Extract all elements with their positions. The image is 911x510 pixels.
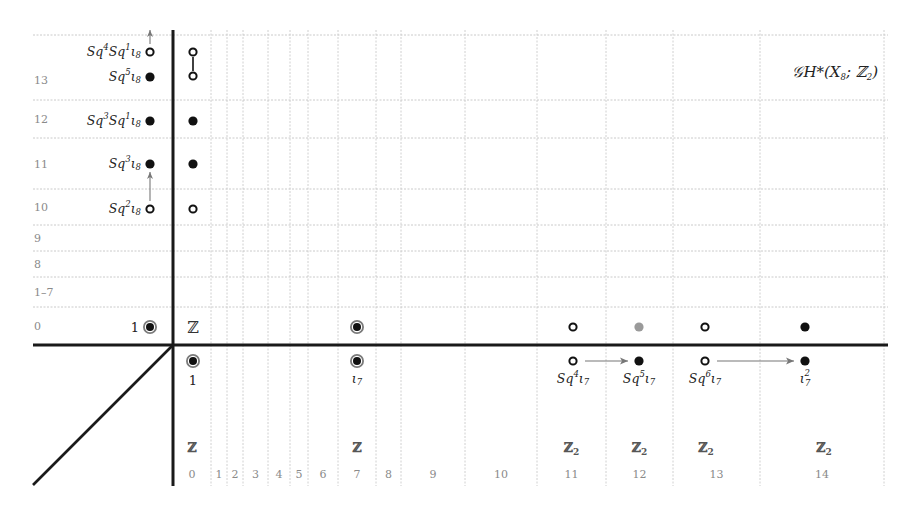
- column-label: 14: [815, 468, 829, 481]
- generator-label: 1: [189, 373, 197, 388]
- open-dot-icon: [189, 72, 196, 79]
- open-dot-icon: [569, 323, 576, 330]
- row-label: 10: [34, 201, 48, 214]
- ring-dot-icon: [350, 320, 364, 334]
- diagram-title: 𝒢H*(X8; ℤ2): [792, 63, 878, 82]
- row-label: 8: [34, 258, 41, 271]
- arrow-icon: [147, 30, 153, 44]
- generator-label: Sq3Sq1ι8: [87, 111, 142, 129]
- generator-label: Sq5ι8: [109, 67, 142, 85]
- column-label: 6: [320, 468, 327, 481]
- lower-row-generators: 1ι7Sq4ι7Sq5ι7Sq6ι7ι27: [186, 354, 811, 388]
- filled-dot-icon: [188, 159, 197, 168]
- column-label: 8: [385, 468, 392, 481]
- filled-dot-icon: [800, 356, 809, 365]
- group-labels: ℤℤℤ2ℤ2ℤ2ℤ2: [187, 440, 832, 457]
- column-label: 7: [354, 468, 361, 481]
- row-label: 1–7: [34, 286, 54, 299]
- filled-dot-icon: [634, 356, 643, 365]
- generator-label: Sq5ι7: [623, 369, 656, 387]
- ring-dot-icon: [186, 354, 200, 368]
- column-label: 9: [430, 468, 437, 481]
- generator-label: ι7: [352, 371, 363, 387]
- generator-label: ι27: [800, 368, 811, 388]
- arrow-icon: [147, 172, 153, 201]
- column-label: 3: [252, 468, 259, 481]
- column-label: 4: [276, 468, 283, 481]
- row-label: 12: [34, 113, 48, 126]
- column-label: 11: [565, 468, 579, 481]
- generator-label: Sq3ι8: [109, 154, 142, 172]
- arrow-icon: [585, 358, 628, 365]
- open-dot-icon: [569, 357, 576, 364]
- open-dot-icon: [701, 323, 708, 330]
- group-label: ℤ2: [698, 440, 714, 457]
- column-label: 10: [494, 468, 508, 481]
- unit-dot-icon: [143, 320, 157, 334]
- spectral-sequence-diagram: 13121110981–70 01234567891011121314 ℤℤℤ2…: [0, 0, 911, 510]
- group-label: ℤ2: [816, 440, 832, 457]
- left-column-generators: Sq4Sq1ι8Sq5ι8Sq3Sq1ι8Sq3ι8Sq2ι81: [87, 42, 157, 335]
- filled-dot-icon: [800, 322, 809, 331]
- row-label: 0: [34, 320, 41, 333]
- open-dot-icon: [146, 48, 153, 55]
- filled-dot-icon: [145, 72, 154, 81]
- generator-label: Sq4Sq1ι8: [87, 42, 142, 60]
- arrow-icon: [717, 358, 794, 365]
- diagonal-axis: [33, 345, 173, 485]
- group-label: ℤ2: [632, 440, 648, 457]
- group-label: ℤ: [352, 440, 362, 455]
- generator-label: Sq4ι7: [557, 369, 590, 387]
- row-label: 9: [34, 232, 41, 245]
- column-label: 0: [189, 468, 196, 481]
- column-0-dots: [188, 48, 197, 212]
- open-dot-icon: [146, 205, 153, 212]
- generator-label: Sq2ι8: [109, 199, 142, 217]
- open-dot-icon: [701, 357, 708, 364]
- filled-dot-icon: [145, 159, 154, 168]
- differential-arrows: [147, 30, 794, 365]
- column-label: 13: [710, 468, 724, 481]
- row0-ring-label: ℤ: [187, 318, 199, 337]
- group-label: ℤ: [187, 440, 197, 455]
- row-label: 11: [34, 158, 48, 171]
- row-0-dots: [350, 320, 810, 334]
- unit-label: 1: [131, 320, 139, 335]
- group-label: ℤ2: [564, 440, 580, 457]
- column-label: 5: [296, 468, 303, 481]
- filled-dot-icon: [145, 116, 154, 125]
- open-dot-icon: [189, 205, 196, 212]
- column-label: 2: [232, 468, 239, 481]
- grid-lines: [33, 30, 888, 486]
- filled-dot-icon: [188, 116, 197, 125]
- column-label: 1: [216, 468, 223, 481]
- row-label: 13: [34, 74, 48, 87]
- column-label: 12: [633, 468, 647, 481]
- row-labels: 13121110981–70: [34, 74, 54, 333]
- open-dot-icon: [189, 48, 196, 55]
- gray-dot-icon: [634, 322, 643, 331]
- column-labels: 01234567891011121314: [189, 468, 830, 481]
- ring-dot-icon: [350, 354, 364, 368]
- generator-label: Sq6ι7: [689, 369, 722, 387]
